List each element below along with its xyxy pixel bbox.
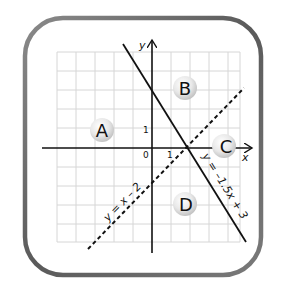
- y-axis-label: y: [138, 39, 146, 52]
- x-axis-label: x: [241, 151, 249, 164]
- graph-card: y x 0 1 1 y = x – 2 y = –1.5x + 3 A B C …: [0, 0, 288, 291]
- region-b-badge: B: [173, 76, 197, 100]
- region-c-badge: C: [212, 134, 236, 158]
- y-tick-label: 1: [143, 125, 149, 135]
- region-d-badge: D: [173, 192, 197, 216]
- svg-text:C: C: [220, 136, 233, 157]
- x-tick-label: 1: [167, 150, 173, 160]
- svg-text:A: A: [96, 120, 109, 141]
- origin-label: 0: [143, 150, 149, 160]
- region-a-badge: A: [90, 118, 114, 142]
- svg-text:B: B: [179, 78, 191, 99]
- svg-text:D: D: [179, 194, 193, 215]
